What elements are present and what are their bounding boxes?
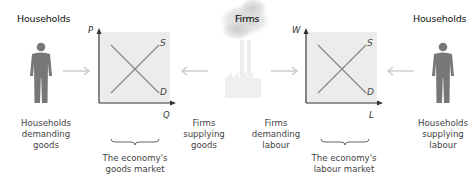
person-icon-left <box>28 42 54 104</box>
firms-demanding-labour-label: Firms demanding labour <box>236 118 316 151</box>
arrow-right-icon-2 <box>271 66 299 76</box>
labour-supply-label: S <box>367 38 373 48</box>
labour-market-brace-icon <box>320 138 370 146</box>
goods-supply-label: S <box>160 38 166 48</box>
arrow-right-icon-1 <box>63 66 91 76</box>
goods-market-caption: The economy's goods market <box>95 153 175 175</box>
goods-demand-label: D <box>160 87 167 97</box>
households-demanding-goods-label: Households demanding goods <box>6 118 86 151</box>
labour-x-axis-label: L <box>369 110 374 120</box>
goods-y-axis-label: P <box>88 25 93 35</box>
arrow-left-icon-1 <box>180 66 208 76</box>
firms-supplying-goods-label: Firms supplying goods <box>164 118 244 151</box>
households-supplying-labour-label: Households supplying labour <box>403 118 474 151</box>
person-icon-right <box>430 42 456 104</box>
households-title-right: Households <box>413 13 466 24</box>
labour-market-caption: The economy's labour market <box>304 153 384 175</box>
arrow-left-icon-2 <box>386 66 414 76</box>
labour-demand-label: D <box>367 87 374 97</box>
labour-y-axis-label: W <box>292 25 300 35</box>
households-title-left: Households <box>17 13 70 24</box>
goods-market-brace-icon <box>110 138 160 146</box>
firms-title-overlay: Firms <box>235 13 259 24</box>
